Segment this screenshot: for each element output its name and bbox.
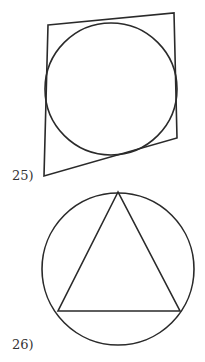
circumscribed-circle (42, 193, 194, 345)
circumscribed-quadrilateral (44, 13, 177, 176)
diagram-canvas: 25) 26) (0, 0, 205, 362)
inscribed-triangle (58, 192, 180, 311)
figure-label-26: 26) (12, 337, 34, 352)
figure-label-25: 25) (12, 168, 34, 183)
figure-25: 25) (12, 13, 177, 183)
figure-26: 26) (12, 192, 194, 352)
inscribed-circle (45, 23, 177, 155)
